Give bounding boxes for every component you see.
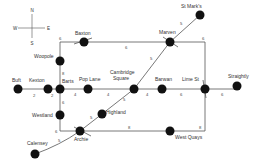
compass-east: E <box>47 26 50 31</box>
weight-cambridge-highland: 5 <box>123 97 126 102</box>
weight-pop-cambridge: 4 <box>107 92 110 97</box>
weight-kexton-barts: 2 <box>51 93 54 98</box>
label-west-quays: West Quays <box>175 134 203 140</box>
edge-barts-westland-archie <box>60 90 80 131</box>
edge-bottom-loop <box>80 89 205 131</box>
station-cambridge-square[interactable] <box>130 85 139 94</box>
rail-network-diagram: N S E W <box>0 0 258 165</box>
weight-barts-pop: 4 <box>74 92 77 97</box>
weight-cambridge-barwan: 4 <box>146 92 149 97</box>
edge-top-loop <box>60 42 205 90</box>
stations <box>14 11 242 159</box>
label-pop-lane: Pop Lane <box>79 76 101 82</box>
compass-west: W <box>13 26 18 31</box>
label-marven: Marven <box>159 29 176 35</box>
station-baxton[interactable] <box>80 38 89 47</box>
compass-rose: N S E W <box>13 8 50 46</box>
station-pop-lane[interactable] <box>84 85 93 94</box>
weight-westquays-lime: 8 <box>199 125 202 130</box>
weight-archie-calensey: 5 <box>58 138 61 143</box>
weight-baxton-marven: 6 <box>125 45 128 50</box>
label-st-marks: St Mark's <box>181 3 202 9</box>
station-lime-st[interactable] <box>201 85 210 94</box>
label-barwan: Barwan <box>155 76 172 82</box>
compass-north: N <box>31 8 34 13</box>
label-westland: Westland <box>32 112 53 118</box>
compass-south: S <box>31 41 34 46</box>
weight-archie-westquays: 8 <box>128 125 131 130</box>
station-buft[interactable] <box>14 85 23 94</box>
station-labels: Buft Kexton Barts Pop Lane Cambridge Squ… <box>12 3 249 146</box>
weight-barts-westland: 6 <box>62 100 65 105</box>
weight-lime-straightly: 6 <box>221 92 224 97</box>
label-straightly: Straightly <box>228 73 249 79</box>
label-square: Square <box>113 75 129 81</box>
label-woopole: Woopole <box>34 53 54 59</box>
station-st-marks[interactable] <box>196 11 205 20</box>
station-barts[interactable] <box>56 85 65 94</box>
label-archie: Archie <box>74 136 88 142</box>
weight-marven-corner: 6 <box>202 36 205 41</box>
weight-woopole-barts: 8 <box>62 71 65 76</box>
label-highland: Highland <box>106 109 126 115</box>
label-buft: Buft <box>12 77 22 83</box>
station-straightly[interactable] <box>233 82 242 91</box>
label-barts: Barts <box>62 78 74 84</box>
station-west-quays[interactable] <box>166 127 175 136</box>
label-kexton: Kexton <box>29 77 45 83</box>
weight-buft-kexton: 2 <box>33 93 36 98</box>
label-lime-st: Lime St <box>182 76 200 82</box>
weight-westland-archie: 6 <box>55 129 58 134</box>
weight-marven-stmarks: 5 <box>180 21 183 26</box>
station-marven[interactable] <box>166 38 175 47</box>
weight-highland-archie: 5 <box>90 115 93 120</box>
station-westland[interactable] <box>56 111 65 120</box>
weight-marven-cambridge: 5 <box>150 56 153 61</box>
label-baxton: Baxton <box>75 30 91 36</box>
station-archie[interactable] <box>76 127 85 136</box>
station-woopole[interactable] <box>56 57 65 66</box>
weight-barwan-lime: 6 <box>180 92 183 97</box>
network-svg: N S E W <box>0 0 258 165</box>
station-barwan[interactable] <box>158 85 167 94</box>
station-calensey[interactable] <box>31 150 40 159</box>
weight-corner-baxton: 6 <box>59 36 62 41</box>
label-calensey: Calensey <box>27 140 48 146</box>
